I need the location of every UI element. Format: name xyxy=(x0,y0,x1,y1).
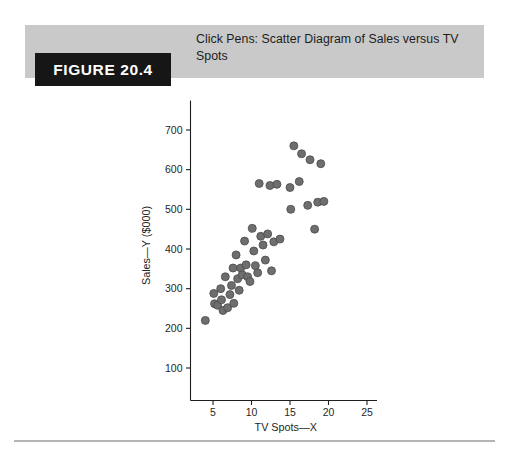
y-tick-label: 300 xyxy=(165,282,183,294)
y-tick-label: 200 xyxy=(165,322,183,334)
data-point xyxy=(201,316,209,324)
x-tick-label: 20 xyxy=(323,406,335,418)
data-point xyxy=(232,251,240,259)
data-point xyxy=(217,296,225,304)
data-point xyxy=(248,224,256,232)
data-point xyxy=(230,299,238,307)
data-point xyxy=(210,289,218,297)
data-point xyxy=(287,205,295,213)
tick-group xyxy=(186,130,367,405)
x-tick-label: 25 xyxy=(361,406,373,418)
y-tick-label: 600 xyxy=(165,163,183,175)
y-tick-label: 700 xyxy=(165,124,183,136)
data-point xyxy=(242,261,250,269)
data-points-group xyxy=(201,142,328,325)
data-point xyxy=(229,264,237,272)
data-point xyxy=(227,281,235,289)
data-point xyxy=(306,156,314,164)
scatter-chart: 100200300400500600700510152025 TV Spots—… xyxy=(0,0,509,461)
x-tick-label: 15 xyxy=(284,406,296,418)
data-point xyxy=(304,201,312,209)
data-point xyxy=(268,267,276,275)
axis-group xyxy=(191,101,378,401)
data-point xyxy=(320,197,328,205)
data-point xyxy=(264,230,272,238)
data-point xyxy=(226,291,234,299)
data-point xyxy=(255,180,263,188)
data-point xyxy=(254,269,262,277)
data-point xyxy=(295,178,303,186)
data-point xyxy=(273,180,281,188)
data-point xyxy=(246,278,254,286)
y-tick-label: 500 xyxy=(165,203,183,215)
data-point xyxy=(317,160,325,168)
data-point xyxy=(221,273,229,281)
axis-title-group: TV Spots—XSales—Y ($000) xyxy=(140,206,317,433)
data-point xyxy=(259,241,267,249)
y-tick-label: 100 xyxy=(165,362,183,374)
bottom-divider-rule xyxy=(14,440,495,442)
data-point xyxy=(276,235,284,243)
data-point xyxy=(290,142,298,150)
y-axis-title: Sales—Y ($000) xyxy=(140,206,152,285)
data-point xyxy=(311,225,319,233)
data-point xyxy=(235,286,243,294)
y-tick-label: 400 xyxy=(165,243,183,255)
data-point xyxy=(286,184,294,192)
data-point xyxy=(250,247,258,255)
data-point xyxy=(217,285,225,293)
x-tick-label: 10 xyxy=(246,406,258,418)
data-point xyxy=(261,256,269,264)
scatter-chart-svg: 100200300400500600700510152025 TV Spots—… xyxy=(0,0,509,461)
x-axis-title: TV Spots—X xyxy=(255,421,317,433)
data-point xyxy=(298,150,306,158)
x-tick-label: 5 xyxy=(210,406,216,418)
data-point xyxy=(241,237,249,245)
